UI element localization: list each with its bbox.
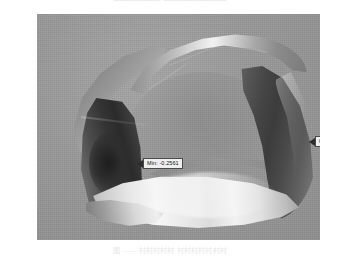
page-header-strip: —————— ———————— bbox=[0, 0, 340, 10]
figure-caption-strip: 图 —— 村村村村村 村村村村村村村 bbox=[0, 245, 340, 259]
figure-canvas: Min: -0.2561 0.0948 bbox=[37, 14, 320, 240]
annotation-max-label: 0.0948 bbox=[315, 136, 320, 147]
annotation-callout-max[interactable]: 0.0948 bbox=[309, 136, 320, 147]
figure-caption-text: 图 —— 村村村村村 村村村村村村村 bbox=[0, 245, 340, 255]
surface-bottom-specular bbox=[145, 172, 277, 218]
annotation-min-label: Min: -0.2561 bbox=[143, 158, 183, 169]
page-header-text: —————— ———————— bbox=[0, 0, 340, 4]
surface-plot-stage: Min: -0.2561 0.0948 bbox=[37, 14, 320, 240]
annotation-callout-min[interactable]: Min: -0.2561 bbox=[137, 158, 183, 169]
